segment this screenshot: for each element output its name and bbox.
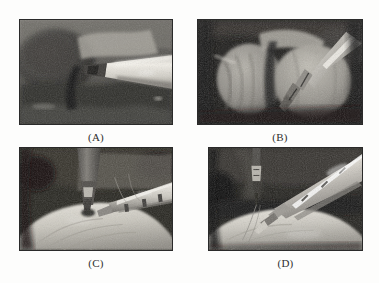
panel-d-image xyxy=(208,147,363,251)
panel-c-image xyxy=(19,147,173,251)
panel-d-caption: (D) xyxy=(208,257,363,269)
panel-c-caption: (C) xyxy=(19,257,173,269)
panel-b-image xyxy=(197,19,363,125)
panel-b-caption: (B) xyxy=(197,131,363,143)
panel-a-caption: (A) xyxy=(19,131,173,143)
panel-a-image xyxy=(19,19,173,125)
figure-panel-grid: (A) xyxy=(0,0,379,283)
